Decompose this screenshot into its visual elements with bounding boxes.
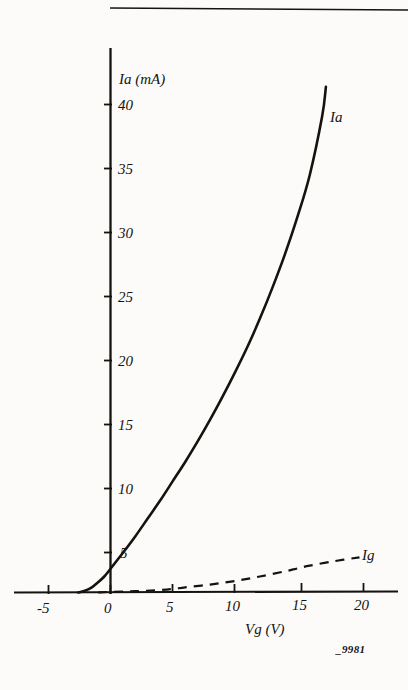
y-tick-label-25: 25 [118,289,134,305]
y-tick-label-20: 20 [118,353,134,369]
series-label-ia: Ia [329,109,343,125]
x-tick-label-minus5: -5 [37,600,50,616]
y-axis-title: Ia (mA) [118,71,165,88]
series-curve-ia [78,87,326,593]
y-tick-label-30: 30 [117,225,134,241]
x-axis-line [14,592,398,593]
top-rule [110,8,408,10]
y-tick-label-15: 15 [118,417,134,433]
chart-canvas: 40 35 30 25 20 15 10 5 -5 0 5 10 15 20 I… [0,0,408,690]
x-tick-label-20: 20 [354,597,370,613]
x-tick-label-0: 0 [104,600,112,616]
x-tick-label-15: 15 [292,597,308,613]
figure-page: 40 35 30 25 20 15 10 5 -5 0 5 10 15 20 I… [0,0,408,690]
x-tick-label-5: 5 [166,599,174,615]
series-label-ig: Ig [361,547,375,563]
y-tick-label-10: 10 [118,481,134,497]
y-tick-label-35: 35 [117,161,134,177]
y-tick-label-40: 40 [118,97,134,113]
figure-reference: _9981 [335,643,366,655]
x-tick-label-10: 10 [225,598,241,614]
x-axis-title: Vg (V) [245,621,285,638]
series-curve-ig [98,557,359,592]
